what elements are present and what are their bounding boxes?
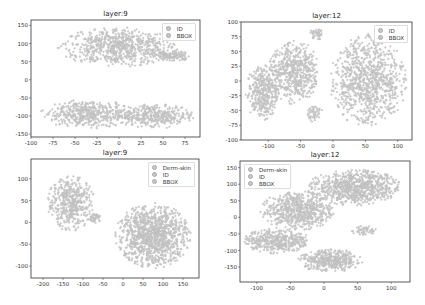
panel-title: layer:12	[240, 151, 410, 159]
legend-item: ID	[152, 171, 191, 178]
panel-title: layer:12	[241, 12, 412, 20]
scatter-panel-bottom-left: layer:9 -200-150-100-50050100150-100-500…	[31, 159, 199, 278]
y-tick-label: 150	[227, 165, 238, 171]
x-tick-label: -50	[286, 285, 295, 291]
y-tick-label: -50	[228, 231, 237, 237]
x-tick-label: 25	[138, 140, 145, 146]
scatter-panel-top-left: layer:9 -100-75-50-250255075-150-100-500…	[31, 20, 200, 137]
x-tick-label: 50	[354, 285, 361, 291]
legend: Derm-skin ID BBOX	[148, 162, 195, 187]
y-tick-label: -50	[229, 108, 238, 114]
x-tick-label: 150	[178, 281, 189, 287]
panel-title: layer:9	[31, 10, 200, 18]
y-tick-label: 75	[231, 34, 238, 40]
scatter-points	[245, 29, 407, 126]
x-tick-label: -200	[37, 281, 50, 287]
y-tick-label: -50	[19, 95, 28, 101]
y-tick-label: 0	[234, 214, 238, 220]
y-tick-label: 0	[235, 78, 239, 84]
legend-marker-icon	[166, 33, 171, 38]
x-tick-label: -75	[49, 140, 58, 146]
x-tick-label: -50	[296, 143, 305, 149]
legend-item: ID	[248, 173, 287, 180]
x-tick-label: 0	[331, 143, 335, 149]
x-tick-label: 100	[393, 143, 404, 149]
legend-marker-icon	[152, 172, 157, 177]
y-tick-label: -50	[19, 241, 28, 247]
x-tick-label: -100	[77, 281, 90, 287]
y-tick-label: -100	[16, 113, 29, 119]
y-tick-label: 0	[25, 77, 29, 83]
legend-item: ID	[166, 25, 192, 32]
y-tick-label: 100	[18, 176, 29, 182]
scatter-points	[40, 27, 194, 129]
y-tick-label: -150	[16, 131, 29, 137]
x-tick-label: -50	[71, 140, 80, 146]
legend-marker-icon	[248, 181, 253, 186]
x-tick-label: 100	[386, 285, 397, 291]
legend-item: ID	[378, 27, 404, 34]
legend: ID BBOX	[374, 25, 408, 43]
legend-marker-icon	[248, 174, 253, 179]
y-tick-label: 50	[21, 59, 28, 65]
x-tick-label: 50	[160, 140, 167, 146]
legend-item: BBOX	[152, 178, 191, 185]
y-tick-label: -75	[229, 122, 238, 128]
y-tick-label: 25	[231, 63, 238, 69]
x-tick-label: -25	[93, 140, 102, 146]
legend-marker-icon	[166, 26, 171, 31]
y-tick-label: 150	[18, 22, 29, 28]
x-tick-label: 0	[117, 140, 121, 146]
y-tick-label: 50	[231, 49, 238, 55]
legend-item: BBOX	[248, 180, 287, 187]
panel-title: layer:9	[31, 149, 199, 157]
x-tick-label: 75	[182, 140, 189, 146]
y-tick-label: 0	[25, 219, 29, 225]
x-tick-label: -100	[25, 140, 38, 146]
legend-item: Derm-skin	[152, 164, 191, 171]
x-tick-label: -100	[262, 143, 275, 149]
legend: ID BBOX	[162, 23, 196, 41]
y-tick-label: 100	[228, 19, 239, 25]
x-tick-label: -150	[57, 281, 70, 287]
y-tick-label: 50	[21, 198, 28, 204]
legend: Derm-skin ID BBOX	[244, 164, 291, 189]
y-tick-label: -150	[225, 264, 238, 270]
x-tick-label: -50	[99, 281, 108, 287]
x-tick-label: 50	[362, 143, 369, 149]
legend-item: BBOX	[378, 34, 404, 41]
x-tick-label: 100	[158, 281, 169, 287]
y-tick-label: -25	[229, 93, 238, 99]
legend-marker-icon	[378, 35, 383, 40]
x-tick-label: 0	[322, 285, 326, 291]
legend-item: Derm-skin	[248, 166, 287, 173]
y-tick-label: -100	[16, 263, 29, 269]
scatter-panel-top-right: layer:12 -100-50050100-100-75-50-2502550…	[241, 22, 412, 140]
legend-item: BBOX	[166, 32, 192, 39]
y-tick-label: -100	[226, 137, 239, 143]
legend-marker-icon	[378, 28, 383, 33]
legend-marker-icon	[248, 167, 253, 172]
legend-marker-icon	[152, 165, 157, 170]
x-tick-label: 50	[140, 281, 147, 287]
y-tick-label: 100	[227, 181, 238, 187]
scatter-panel-bottom-right: layer:12 -100-50050100-150-100-500501001…	[240, 161, 410, 282]
y-tick-label: 50	[230, 198, 237, 204]
scatter-points	[47, 175, 191, 269]
legend-marker-icon	[152, 179, 157, 184]
x-tick-label: -100	[251, 285, 264, 291]
x-tick-label: 0	[121, 281, 125, 287]
y-tick-label: 100	[18, 41, 29, 47]
y-tick-label: -100	[225, 248, 238, 254]
